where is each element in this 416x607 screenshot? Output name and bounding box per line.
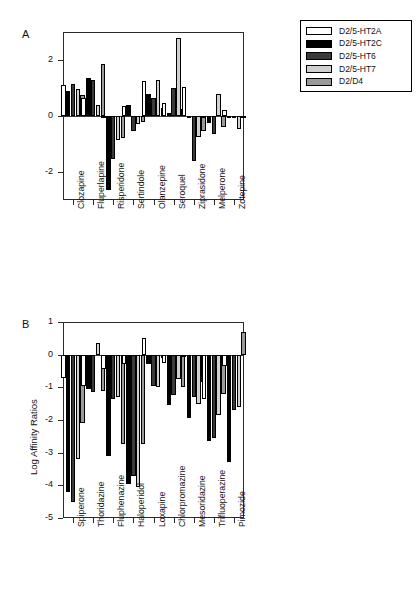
x-tick xyxy=(93,200,94,205)
bar xyxy=(111,116,115,159)
bar xyxy=(61,355,65,378)
bar xyxy=(116,355,120,397)
bar xyxy=(96,343,100,354)
y-tick xyxy=(58,322,63,323)
bar xyxy=(241,332,245,355)
bar xyxy=(237,355,241,407)
bar xyxy=(146,94,150,116)
y-tick-label: -4 xyxy=(27,480,53,489)
figure-root: D2/5-HT2AD2/5-HT2CD2/5-HT6D2/5-HT7D2/D4 … xyxy=(0,0,416,607)
legend-item-2: D2/5-HT2C xyxy=(306,38,406,51)
series-d2-d4-label: D2/D4 xyxy=(339,77,363,86)
bar xyxy=(216,94,220,116)
bar xyxy=(196,116,200,137)
legend-item-1: D2/5-HT2A xyxy=(306,25,406,38)
x-tick xyxy=(234,200,235,205)
bar xyxy=(86,78,90,116)
bar xyxy=(106,116,110,190)
chart-legend: D2/5-HT2AD2/5-HT2CD2/5-HT6D2/5-HT7D2/D4 xyxy=(300,20,412,92)
x-tick xyxy=(174,518,175,523)
y-tick xyxy=(58,518,63,519)
bar xyxy=(156,80,160,116)
x-tick xyxy=(194,518,195,523)
bar xyxy=(222,355,226,366)
series-d2-5ht2c-label: D2/5-HT2C xyxy=(339,39,382,48)
y-tick xyxy=(58,485,63,486)
bar xyxy=(192,116,196,161)
bar xyxy=(167,355,171,406)
legend-item-4: D2/5-HT7 xyxy=(306,63,406,76)
x-tick-label: Fluperlapine xyxy=(97,161,106,209)
bar xyxy=(81,98,85,116)
x-tick xyxy=(73,200,74,205)
bar xyxy=(151,355,155,386)
y-tick-label: -2 xyxy=(27,167,53,176)
bar xyxy=(232,355,236,411)
bar xyxy=(101,355,105,370)
bar xyxy=(187,116,191,118)
bar xyxy=(196,355,200,404)
bar xyxy=(182,87,186,116)
bar xyxy=(136,116,140,124)
bar xyxy=(122,355,126,365)
panel-b: B 10-1-2-3-4-5 SpiperoneThoridazineFluph… xyxy=(0,300,300,607)
y-tick xyxy=(58,355,63,356)
bar xyxy=(122,106,126,116)
panel-a: A -202 ClozapineFluperlapineRisperidoneS… xyxy=(0,0,300,300)
x-tick-label: Zotepine xyxy=(238,175,247,209)
panel-b-y-axis-title: Log Affinity Ratios xyxy=(28,399,39,475)
bar xyxy=(227,116,231,118)
x-tick-label: Mesoridazine xyxy=(198,475,207,527)
x-tick xyxy=(234,518,235,523)
series-d2-5ht2a-swatch xyxy=(306,27,332,35)
bar xyxy=(126,355,130,484)
x-tick xyxy=(174,200,175,205)
y-tick xyxy=(58,116,63,117)
bar xyxy=(207,355,211,442)
bar xyxy=(142,338,146,354)
bar xyxy=(71,84,75,116)
x-tick xyxy=(154,200,155,205)
x-tick-label: Trifluoperazine xyxy=(218,470,227,527)
x-tick-label: Olanzepine xyxy=(158,165,167,209)
x-tick xyxy=(73,518,74,523)
bar xyxy=(106,355,110,456)
x-tick-label: Seroquel xyxy=(178,174,187,209)
bar xyxy=(146,355,150,365)
x-tick xyxy=(194,200,195,205)
y-tick-label: 1 xyxy=(27,317,53,326)
bar xyxy=(81,355,85,386)
series-d2-5ht7-label: D2/5-HT7 xyxy=(339,65,376,74)
bar xyxy=(207,116,211,123)
x-tick-label: Spiperone xyxy=(77,487,86,527)
series-d2-d4-swatch xyxy=(306,78,332,86)
bar xyxy=(96,105,100,116)
y-tick xyxy=(58,172,63,173)
y-tick-label: 2 xyxy=(27,55,53,64)
x-tick-label: Ziprasidone xyxy=(198,164,207,209)
series-d2-5ht2c-swatch xyxy=(306,40,332,48)
bar xyxy=(222,110,226,116)
bar xyxy=(66,91,70,116)
y-tick xyxy=(58,420,63,421)
x-tick xyxy=(93,518,94,523)
bar xyxy=(156,355,160,388)
bar xyxy=(131,355,135,476)
bar xyxy=(227,355,231,463)
bar xyxy=(171,88,175,116)
x-tick-label: Risperidone xyxy=(117,163,126,209)
bar xyxy=(212,116,216,134)
bar xyxy=(66,355,70,492)
bar xyxy=(216,355,220,415)
bar xyxy=(212,355,216,438)
bar xyxy=(76,355,80,460)
y-tick xyxy=(58,60,63,61)
x-tick-label: Sertindole xyxy=(137,170,146,209)
bar xyxy=(202,116,206,118)
y-tick xyxy=(58,387,63,388)
bar xyxy=(176,355,180,380)
bar xyxy=(187,355,191,419)
x-tick-label: Fluphenazine xyxy=(117,475,126,527)
y-tick-label: -1 xyxy=(27,382,53,391)
x-tick xyxy=(214,200,215,205)
